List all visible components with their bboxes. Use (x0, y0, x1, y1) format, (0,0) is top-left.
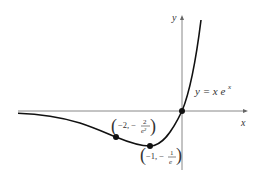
svg-text:): ) (176, 143, 182, 166)
inflection-label: ( −2, − 2 e² ) (111, 114, 156, 137)
svg-text:2: 2 (143, 118, 147, 126)
svg-text:1: 1 (170, 149, 174, 157)
svg-text:(: ( (111, 114, 117, 137)
svg-text:−1, −: −1, − (146, 151, 164, 161)
svg-text:e: e (169, 158, 172, 166)
y-axis-label: y (171, 12, 177, 23)
svg-text:e²: e² (141, 127, 147, 135)
x-axis-arrow-icon (243, 109, 248, 113)
svg-text:): ) (150, 114, 156, 137)
function-label: y = x e (194, 85, 225, 97)
origin-point (179, 108, 185, 114)
svg-text:−2, −: −2, − (118, 120, 136, 130)
function-exponent: x (227, 83, 232, 91)
x-axis-label: x (240, 117, 246, 128)
y-axis-arrow-icon (180, 15, 184, 20)
curve (18, 20, 201, 146)
minimum-point (147, 143, 153, 149)
function-graph: x y y = x e x ( −2, − 2 e² ) ( −1, − 1 e… (0, 0, 257, 180)
